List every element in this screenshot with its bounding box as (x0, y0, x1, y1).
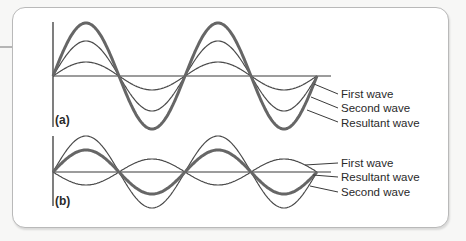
panel-b-label-first-wave: First wave (341, 156, 393, 170)
panel-b-label: (b) (55, 194, 70, 208)
panel-a-label-resultant-wave: Resultant wave (341, 116, 420, 130)
diagram-canvas: (a) First wave Second wave Resultant wav… (0, 0, 466, 241)
panel-b-graph (53, 136, 338, 208)
panel-a-label: (a) (55, 113, 70, 127)
panel-a-label-second-wave: Second wave (341, 101, 410, 115)
panel-a-leader-second (311, 97, 338, 108)
panel-a-leader-first (314, 84, 338, 94)
panel-b-label-resultant-wave: Resultant wave (341, 170, 420, 184)
panel-a-label-first-wave: First wave (341, 87, 393, 101)
panel-b-leader-resultant (313, 175, 338, 177)
panel-b-label-second-wave: Second wave (341, 185, 410, 199)
panel-b-leader-second (310, 186, 338, 192)
panel-a-leader-resultant (307, 110, 338, 122)
panel-a-graph (53, 22, 338, 129)
panel-b-leader-first (305, 163, 338, 165)
